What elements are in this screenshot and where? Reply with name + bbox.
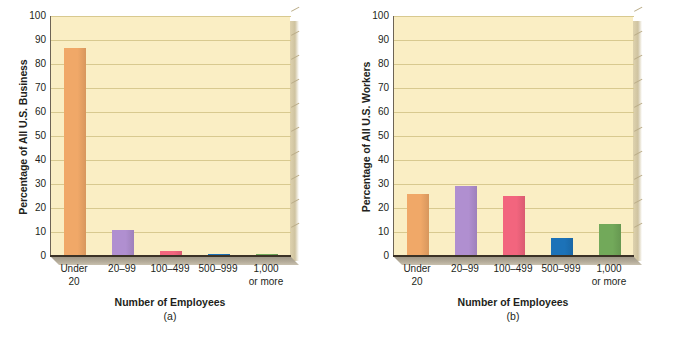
gridline	[51, 112, 291, 113]
y-tick-label: 80	[22, 59, 46, 69]
bar-face	[407, 194, 429, 256]
gridline	[394, 184, 634, 185]
x-tick-label-line: 20	[385, 275, 449, 288]
chart-panel-b: Percentage of All U.S. Workers 010203040…	[343, 0, 686, 337]
panel-label-a: (a)	[50, 310, 290, 322]
y-tick-label: 60	[365, 107, 389, 117]
x-axis-baseline-a	[50, 255, 291, 257]
y-tick-label: 10	[365, 227, 389, 237]
gridline	[394, 160, 634, 161]
panel-label-b: (b)	[393, 310, 633, 322]
y-tick-label: 40	[365, 155, 389, 165]
y-tick-label: 20	[365, 203, 389, 213]
gridline	[51, 64, 291, 65]
bar-b-1	[455, 186, 477, 256]
plot-area-a	[50, 16, 290, 256]
y-tick-label: 90	[365, 35, 389, 45]
y-tick-label: 60	[22, 107, 46, 117]
figure-two-panel-bar-charts: Percentage of All U.S. Business 01020304…	[0, 0, 686, 337]
plot-shell-a	[50, 16, 290, 256]
y-tick-label: 70	[22, 83, 46, 93]
x-tick-label: 1,000or more	[234, 262, 298, 288]
x-tick-label-line: 1,000	[577, 262, 641, 275]
y-tick-label: 50	[365, 131, 389, 141]
y-tick-label: 80	[365, 59, 389, 69]
y-tick-label: 100	[22, 11, 46, 21]
y-tick-label: 30	[365, 179, 389, 189]
plot-shell-b	[393, 16, 633, 256]
y-axis-tick-labels-b: 0102030405060708090100	[361, 16, 389, 256]
gridline	[51, 16, 291, 17]
gridline	[394, 16, 634, 17]
x-tick-label-line: 1,000	[234, 262, 298, 275]
x-tick-label-line: or more	[577, 275, 641, 288]
x-axis-title-b: Number of Employees	[393, 296, 633, 308]
y-tick-label: 100	[365, 11, 389, 21]
y-tick-label: 20	[22, 203, 46, 213]
x-axis-baseline-b	[393, 255, 634, 257]
gridline	[51, 184, 291, 185]
y-axis-tick-labels-a: 0102030405060708090100	[18, 16, 46, 256]
gridline-3d-edge	[291, 7, 299, 12]
x-axis-title-a: Number of Employees	[50, 296, 290, 308]
gridline	[51, 160, 291, 161]
bar-a-1	[112, 230, 134, 256]
bar-a-0	[64, 48, 86, 256]
gridline	[51, 136, 291, 137]
gridline	[394, 40, 634, 41]
x-axis-tick-labels-b: Under2020–99100–499500–9991,000or more	[393, 262, 633, 296]
bar-face	[599, 224, 621, 256]
gridline	[394, 88, 634, 89]
gridline	[394, 112, 634, 113]
y-tick-label: 40	[22, 155, 46, 165]
y-tick-label: 70	[365, 83, 389, 93]
y-tick-label: 50	[22, 131, 46, 141]
gridline	[394, 136, 634, 137]
bar-face	[551, 238, 573, 256]
x-tick-label-line: or more	[234, 275, 298, 288]
bar-b-4	[599, 224, 621, 256]
x-tick-label-line: 20	[42, 275, 106, 288]
gridline	[51, 40, 291, 41]
bar-b-3	[551, 238, 573, 256]
plot-area-b	[393, 16, 633, 256]
bar-face	[455, 186, 477, 256]
y-tick-label: 30	[22, 179, 46, 189]
bar-face	[112, 230, 134, 256]
chart-panel-a: Percentage of All U.S. Business 01020304…	[0, 0, 343, 337]
gridline	[51, 88, 291, 89]
bar-face	[503, 196, 525, 256]
gridline-3d-edge	[634, 7, 642, 12]
y-tick-label: 0	[22, 251, 46, 261]
x-tick-label: 1,000or more	[577, 262, 641, 288]
gridline	[394, 64, 634, 65]
bar-b-2	[503, 196, 525, 256]
bar-b-0	[407, 194, 429, 256]
x-axis-tick-labels-a: Under2020–99100–499500–9991,000or more	[50, 262, 290, 296]
bar-face	[64, 48, 86, 256]
y-tick-label: 10	[22, 227, 46, 237]
gridline	[51, 208, 291, 209]
y-tick-label: 0	[365, 251, 389, 261]
y-tick-label: 90	[22, 35, 46, 45]
gridline	[51, 232, 291, 233]
